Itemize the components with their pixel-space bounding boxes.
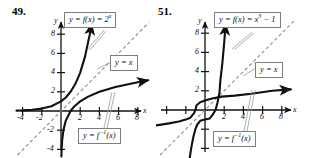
xtick-label-2: 2 [222,113,226,121]
callout-inverse-51-text: y = f−1(x) [218,133,251,143]
ytick-label--2: -2 [47,126,54,134]
callout-function-51-text: y = f(x) = x3 − 1 [219,14,276,24]
callout-identity-51-text: y = x [260,64,278,74]
leader-function-2 [90,31,106,50]
y-axis-label-49: y [54,17,58,25]
ytick-label-4: 4 [51,68,55,76]
ytick-label-6: 6 [51,49,55,57]
figure-51-panel: 51. [156,0,313,158]
ytick-label-6: 6 [195,48,199,56]
callout-identity-49: y = x [110,55,138,71]
xtick-label-6: 6 [260,113,264,121]
ytick-label-8: 8 [195,29,199,37]
leader-function [232,32,252,49]
callout-function-51: y = f(x) = x3 − 1 [214,12,281,28]
xtick-label-2: 2 [78,114,82,122]
figure-49-panel: 49. [0,0,157,158]
xtick-label-4: 4 [241,113,245,121]
xtick-label-6: 6 [116,114,120,122]
ytick-label--4: -4 [47,145,54,153]
xtick-label-8: 8 [279,113,283,121]
callout-identity-49-text: y = x [115,57,133,67]
callout-inverse-49-text: y = f−1(x) [83,130,116,140]
callout-inverse-49: y = f−1(x) [78,128,121,144]
callout-function-49-text: y = f(x) = 2x [69,14,111,24]
ytick-label-2: 2 [195,86,199,94]
xtick-label-4: 4 [97,114,101,122]
xtick-label-8: 8 [135,114,139,122]
callout-function-49: y = f(x) = 2x [64,12,116,28]
figure-pair-page: 49. [0,0,313,158]
ytick-label-2: 2 [51,87,55,95]
callout-leaders [88,30,115,128]
x-axis-label-51: x [293,106,297,114]
ytick-label-4: 4 [195,67,199,75]
leader-function-2 [234,33,254,50]
xtick-label--4: -4 [17,114,24,122]
ytick-label-8: 8 [51,30,55,38]
x-axis-label-49: x [143,107,147,115]
callout-inverse-51: y = f−1(x) [213,131,256,147]
callout-identity-51: y = x [255,62,283,78]
xtick-label--2: -2 [36,114,43,122]
y-axis-label-51: y [198,17,202,25]
